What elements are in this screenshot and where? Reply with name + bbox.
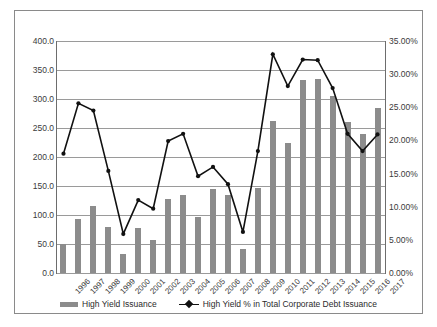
y-axis-right-line bbox=[385, 41, 386, 274]
line-marker bbox=[136, 198, 140, 202]
line-marker bbox=[61, 152, 65, 156]
y-axis-left-tick: 350.0 bbox=[16, 65, 54, 75]
y-axis-left-tick: 100.0 bbox=[16, 210, 54, 220]
y-axis-right-tick: 20.00% bbox=[389, 135, 431, 145]
x-axis-tick: 2009 bbox=[268, 277, 287, 296]
x-axis-tick: 2014 bbox=[343, 277, 362, 296]
y-axis-left-tick: 50.0 bbox=[16, 239, 54, 249]
chart-legend: High Yield Issuance High Yield % in Tota… bbox=[15, 299, 422, 309]
x-axis-tick: 2007 bbox=[238, 277, 257, 296]
chart-container: 0.050.0100.0150.0200.0250.0300.0350.0400… bbox=[14, 10, 423, 314]
y-axis-right-tick: 30.00% bbox=[389, 69, 431, 79]
line-path bbox=[63, 54, 377, 234]
x-axis-tick: 2012 bbox=[313, 277, 332, 296]
line-marker bbox=[256, 149, 260, 153]
legend-item-high-yield-percent: High Yield % in Total Corporate Debt Iss… bbox=[179, 299, 377, 309]
line-marker bbox=[331, 86, 335, 90]
line-marker bbox=[106, 169, 110, 173]
y-axis-right-tick: 10.00% bbox=[389, 202, 431, 212]
line-marker bbox=[226, 182, 230, 186]
y-axis-right-tick: 5.00% bbox=[389, 235, 431, 245]
y-axis-left-tick: 400.0 bbox=[16, 36, 54, 46]
y-axis-right-tick: 0.00% bbox=[389, 268, 431, 278]
y-axis-left-tick: 150.0 bbox=[16, 181, 54, 191]
line-marker bbox=[360, 149, 364, 153]
line-marker bbox=[196, 174, 200, 178]
line-marker-icon bbox=[179, 301, 199, 308]
x-axis-tick: 2008 bbox=[253, 277, 272, 296]
line-marker bbox=[91, 109, 95, 113]
y-axis-left-line bbox=[56, 41, 57, 274]
line-marker bbox=[346, 132, 350, 136]
x-axis-tick: 2006 bbox=[223, 277, 242, 296]
line-marker bbox=[271, 52, 275, 56]
line-marker bbox=[286, 84, 290, 88]
line-marker bbox=[151, 207, 155, 211]
line-marker bbox=[301, 57, 305, 61]
y-axis-left-tick: 0.0 bbox=[16, 268, 54, 278]
line-marker bbox=[76, 101, 80, 105]
line-marker bbox=[166, 139, 170, 143]
bar-swatch-icon bbox=[60, 302, 78, 307]
line-marker bbox=[211, 165, 215, 169]
y-axis-left-tick: 300.0 bbox=[16, 94, 54, 104]
y-axis-right-labels: 0.00%5.00%10.00%15.00%20.00%25.00%30.00%… bbox=[389, 11, 435, 313]
legend-item-high-yield-issuance: High Yield Issuance bbox=[60, 299, 157, 309]
y-axis-right-tick: 25.00% bbox=[389, 102, 431, 112]
line-marker bbox=[181, 132, 185, 136]
x-axis-tick: 2011 bbox=[298, 277, 317, 296]
line-series-high-yield-percent bbox=[56, 41, 385, 273]
line-marker bbox=[375, 132, 379, 136]
line-marker bbox=[241, 230, 245, 234]
y-axis-left-tick: 250.0 bbox=[16, 123, 54, 133]
line-marker bbox=[316, 58, 320, 62]
x-axis-tick: 2013 bbox=[328, 277, 347, 296]
plot-area bbox=[56, 41, 385, 273]
x-axis-tick: 2015 bbox=[358, 277, 377, 296]
legend-label: High Yield Issuance bbox=[82, 299, 157, 309]
legend-label: High Yield % in Total Corporate Debt Iss… bbox=[203, 299, 377, 309]
y-axis-right-tick: 35.00% bbox=[389, 36, 431, 46]
y-axis-right-tick: 15.00% bbox=[389, 169, 431, 179]
y-axis-left-labels: 0.050.0100.0150.0200.0250.0300.0350.0400… bbox=[15, 11, 54, 313]
y-axis-left-tick: 200.0 bbox=[16, 152, 54, 162]
line-marker bbox=[121, 232, 125, 236]
